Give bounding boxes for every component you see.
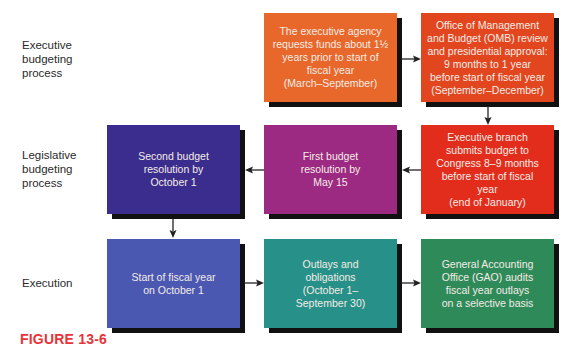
arrow-omb-to-submits-icon <box>483 104 493 126</box>
box-exec-submits-text: Executive branch submits budget to Congr… <box>436 131 539 209</box>
box-second-resolution-text: Second budget resolution by October 1 <box>138 150 209 189</box>
arrow-agency-to-omb-icon <box>397 54 423 64</box>
box-omb-review-text: Office of Management and Budget (OMB) re… <box>427 19 548 97</box>
box-outlays: Outlays and obligations (October 1– Sept… <box>264 239 397 328</box>
box-first-resolution-text: First budget resolution by May 15 <box>301 150 361 189</box>
row-label-execution: Execution <box>22 276 102 290</box>
figure-caption: FIGURE 13-6 <box>20 331 107 347</box>
arrow-start-to-outlays-icon <box>242 278 266 288</box>
box-first-resolution: First budget resolution by May 15 <box>264 125 397 214</box>
box-exec-submits: Executive branch submits budget to Congr… <box>421 125 554 214</box>
box-agency-request-text: The executive agency requests funds abou… <box>273 25 389 90</box>
arrow-second-to-start-icon <box>168 217 178 239</box>
box-fiscal-start-text: Start of fiscal year on October 1 <box>131 271 215 297</box>
box-gao-audit-text: General Accounting Office (GAO) audits f… <box>442 258 534 310</box>
box-second-resolution: Second budget resolution by October 1 <box>107 125 240 214</box>
row-label-executive: Executive budgeting process <box>22 38 102 80</box>
arrow-submits-to-first-icon <box>401 165 423 175</box>
box-outlays-text: Outlays and obligations (October 1– Sept… <box>296 258 365 310</box>
box-fiscal-start: Start of fiscal year on October 1 <box>107 239 240 328</box>
box-omb-review: Office of Management and Budget (OMB) re… <box>421 13 554 102</box>
arrow-first-to-second-icon <box>244 165 266 175</box>
row-label-legislative: Legislative budgeting process <box>22 148 102 190</box>
box-agency-request: The executive agency requests funds abou… <box>264 13 397 102</box>
box-gao-audit: General Accounting Office (GAO) audits f… <box>421 239 554 328</box>
arrow-outlays-to-gao-icon <box>399 278 423 288</box>
